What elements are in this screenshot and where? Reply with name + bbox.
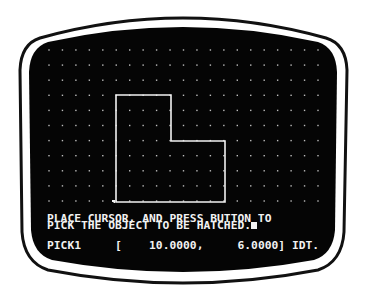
status-line: PICK1 [ 10.0000, 6.0000] IDT. (47, 240, 319, 251)
grid-dot (277, 80, 278, 81)
grid-dot (210, 49, 211, 50)
grid-dot (62, 80, 63, 81)
grid-dot (277, 170, 278, 171)
grid-dot (89, 155, 90, 156)
grid-dot (223, 110, 224, 111)
grid-dot (89, 170, 90, 171)
grid-dot (48, 110, 49, 111)
grid-dot (277, 49, 278, 50)
grid-dot (223, 64, 224, 65)
grid-dot (129, 80, 130, 81)
grid-dot (317, 64, 318, 65)
grid-dot (129, 155, 130, 156)
grid-dot (89, 200, 90, 201)
grid-dot (75, 140, 76, 141)
grid-dot (237, 49, 238, 50)
grid-dot (237, 64, 238, 65)
grid-dot (89, 125, 90, 126)
grid-dot (129, 170, 130, 171)
grid-dot (169, 80, 170, 81)
grid-dot (304, 95, 305, 96)
grid-dot (156, 80, 157, 81)
grid-dot (75, 170, 76, 171)
grid-dot (142, 64, 143, 65)
grid-dot (48, 64, 49, 65)
grid-dot (237, 185, 238, 186)
grid-dot (290, 49, 291, 50)
text-cursor-block (251, 222, 257, 229)
x-coordinate: 10.0000, (149, 239, 203, 252)
grid-dot (102, 200, 103, 201)
grid-dot (62, 200, 63, 201)
grid-dot (290, 64, 291, 65)
grid-dot (62, 64, 63, 65)
grid-dot (142, 110, 143, 111)
grid-dot (250, 125, 251, 126)
grid-dot (116, 80, 117, 81)
grid-dot (129, 110, 130, 111)
grid-dot (142, 155, 143, 156)
coordinate-mode-suffix: IDT. (292, 239, 319, 252)
grid-dot (264, 110, 265, 111)
grid-dot (62, 185, 63, 186)
grid-dot (89, 95, 90, 96)
grid-dot (62, 155, 63, 156)
grid-dot (277, 200, 278, 201)
grid-dot (183, 155, 184, 156)
grid-dot (304, 200, 305, 201)
grid-dot (75, 200, 76, 201)
grid-dot (264, 125, 265, 126)
grid-dot (48, 155, 49, 156)
grid-dot (129, 140, 130, 141)
grid-dot (196, 80, 197, 81)
grid-dot (75, 125, 76, 126)
grid-dot (89, 110, 90, 111)
grid-dot (75, 155, 76, 156)
grid-dot (75, 110, 76, 111)
grid-dot (250, 64, 251, 65)
grid-dot (210, 170, 211, 171)
grid-dot (169, 170, 170, 171)
grid-dot (277, 95, 278, 96)
grid-dot (277, 125, 278, 126)
grid-dot (102, 64, 103, 65)
grid-dot (290, 110, 291, 111)
grid-dot (264, 95, 265, 96)
grid-dot (183, 64, 184, 65)
grid-dot (250, 200, 251, 201)
grid-dot (250, 170, 251, 171)
grid-dot (237, 125, 238, 126)
grid-dot (169, 49, 170, 50)
grid-dot (89, 64, 90, 65)
grid-dot (89, 140, 90, 141)
grid-dot (317, 80, 318, 81)
grid-dot (89, 185, 90, 186)
grid-dot (250, 140, 251, 141)
grid-dot (48, 80, 49, 81)
grid-dot (290, 125, 291, 126)
grid-dot (102, 140, 103, 141)
grid-dot (48, 185, 49, 186)
grid-dot (102, 125, 103, 126)
grid-dot (116, 49, 117, 50)
grid-dot (317, 200, 318, 201)
grid-dot (237, 80, 238, 81)
grid-dot (304, 110, 305, 111)
grid-dot (304, 140, 305, 141)
grid-dot (304, 185, 305, 186)
crt-screen (29, 27, 337, 272)
grid-dot (264, 170, 265, 171)
grid-dot (223, 95, 224, 96)
grid-dot (156, 49, 157, 50)
grid-dot (156, 170, 157, 171)
grid-dot (142, 140, 143, 141)
grid-dot (237, 95, 238, 96)
grid-dot (89, 80, 90, 81)
prompt-line-2-text: PICK THE OBJECT TO BE HATCHED. (47, 219, 251, 232)
grid-dot (237, 140, 238, 141)
grid-dot (250, 95, 251, 96)
grid-dot (317, 170, 318, 171)
coordinate-open-bracket: [ (115, 239, 122, 252)
grid-dot (75, 185, 76, 186)
grid-dot (102, 170, 103, 171)
